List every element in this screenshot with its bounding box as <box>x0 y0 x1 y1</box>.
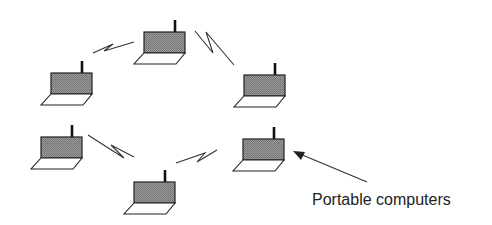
wireless-link-icon <box>93 42 134 53</box>
laptop-icon <box>233 127 284 171</box>
laptop-icon <box>41 61 92 105</box>
laptop-icon <box>234 63 285 107</box>
laptop-icon <box>124 170 175 214</box>
wireless-link-icon <box>88 135 134 158</box>
wireless-link-icon <box>176 150 217 163</box>
portable-computers-label: Portable computers <box>312 191 451 208</box>
wireless-link-icon <box>195 31 234 65</box>
network-diagram: Portable computers <box>0 0 492 225</box>
laptop-icon <box>31 125 82 169</box>
laptop-icon <box>134 20 185 64</box>
arrow-icon <box>293 151 367 182</box>
